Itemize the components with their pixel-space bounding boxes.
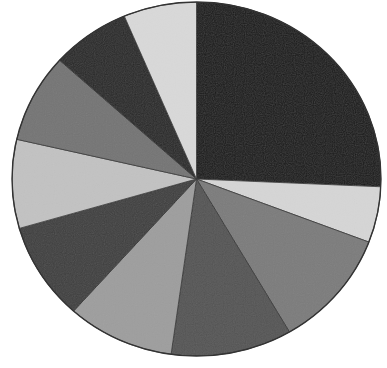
- pie-chart-canvas: [0, 0, 387, 368]
- pie-slices: [12, 2, 381, 356]
- pie-chart: [0, 0, 387, 368]
- pie-slice-1: [197, 2, 381, 187]
